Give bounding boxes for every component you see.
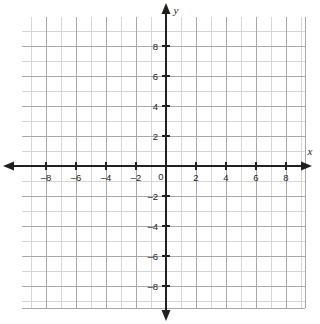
y-tick-label: 2: [153, 131, 158, 142]
y-tick-label: –2: [147, 191, 158, 202]
x-tick-label: –6: [71, 172, 82, 183]
coordinate-plane-figure: –8–6–4–224688642–2–4–6–8 x y 0: [0, 0, 320, 324]
x-tick-label: 2: [193, 172, 198, 183]
y-axis-arrow-bottom: [162, 310, 171, 321]
x-axis-arrow-right: [301, 162, 312, 171]
y-tick-label: 8: [153, 41, 158, 52]
grid-minor-lines: [22, 17, 305, 308]
y-tick-label: –4: [147, 221, 158, 232]
x-tick-label: 8: [283, 172, 288, 183]
y-tick-label: 4: [153, 101, 158, 112]
x-tick-label: –8: [41, 172, 52, 183]
x-tick-label: –4: [101, 172, 112, 183]
y-axis: [162, 3, 171, 321]
x-axis-label: x: [307, 145, 313, 157]
y-tick-label: –6: [147, 251, 158, 262]
x-tick-label: 4: [223, 172, 228, 183]
x-tick-label: 6: [253, 172, 258, 183]
y-tick-label: –8: [147, 281, 158, 292]
y-axis-label: y: [173, 4, 179, 16]
y-tick-label: 6: [153, 71, 158, 82]
x-axis: [3, 162, 312, 171]
x-axis-arrow-left: [3, 162, 14, 171]
origin-label: 0: [158, 171, 163, 182]
coordinate-grid-svg: –8–6–4–224688642–2–4–6–8 x y 0: [0, 0, 320, 324]
x-tick-label: –2: [131, 172, 142, 183]
y-axis-arrow-top: [162, 3, 171, 14]
